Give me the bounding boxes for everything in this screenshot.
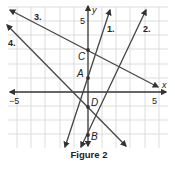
- x-tick-neg5: −5: [9, 96, 19, 106]
- line-4: [7, 25, 126, 146]
- y-tick-5: 5: [80, 16, 85, 26]
- x-axis-label: x: [161, 80, 167, 90]
- line-3-label: 3.: [34, 12, 42, 22]
- coordinate-graph: C A D B 1. 2. 3. 4. y x 5 −5 5 Figure 2: [0, 0, 175, 169]
- y-axis-label: y: [91, 5, 97, 15]
- point-d-label: D: [91, 97, 98, 108]
- point-c: [86, 48, 90, 52]
- x-tick-5: 5: [152, 96, 157, 106]
- line-4-label: 4.: [8, 38, 16, 48]
- point-b-label: B: [91, 131, 98, 142]
- figure-caption: Figure 2: [71, 149, 108, 160]
- point-b: [86, 133, 90, 137]
- point-a-label: A: [76, 68, 84, 79]
- point-c-label: C: [78, 51, 86, 62]
- point-d: [86, 105, 90, 109]
- line-2-label: 2.: [143, 24, 151, 34]
- line-1-label: 1.: [107, 24, 115, 34]
- point-a: [86, 76, 90, 80]
